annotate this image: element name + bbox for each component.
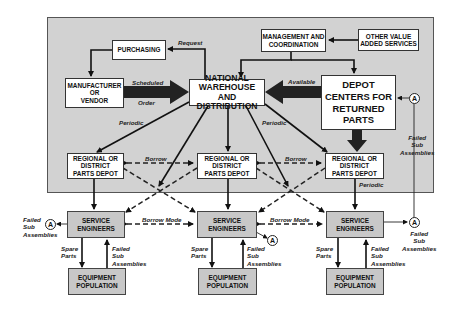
manufacturer-vendor-box: MANUFACTURER OR VENDOR	[65, 78, 124, 108]
equipment-population-right-box: EQUIPMENT POPULATION	[326, 268, 384, 295]
failed-sub-eq-left-label: Failed Sub Assemblies	[112, 245, 146, 267]
failed-sub-eq-right-label: Failed Sub Assemblies	[371, 245, 405, 267]
order-label: Order	[138, 99, 155, 106]
spare-parts-left-label: Spare Parts	[61, 245, 78, 260]
failed-sub-top-right-label: Failed Sub Assemblies	[400, 134, 434, 156]
spare-parts-right-label: Spare Parts	[316, 245, 333, 260]
failed-sub-eq-mid-label: Failed Sub Assemblies	[247, 245, 281, 267]
periodic-mid-label: Periodic	[262, 119, 286, 126]
scheduled-label: Scheduled	[132, 79, 163, 86]
regional-depot-right-box: REGIONAL OR DISTRICT PARTS DEPOT	[325, 153, 384, 179]
equipment-population-left-box: EQUIPMENT POPULATION	[68, 268, 126, 295]
request-label: Request	[178, 39, 202, 46]
equipment-population-mid-box: EQUIPMENT POPULATION	[198, 268, 257, 295]
management-coordination-box: MANAGEMENT AND COORDINATION	[261, 29, 326, 52]
borrow-mode-right-label: Borrow Mode	[270, 216, 310, 223]
connector-a-top-right: A	[409, 93, 420, 104]
spare-parts-mid-label: Spare Parts	[191, 245, 208, 260]
regional-depot-left-box: REGIONAL OR DISTRICT PARTS DEPOT	[67, 153, 124, 179]
failed-sub-left-label: Failed Sub Assemblies	[23, 216, 57, 238]
service-engineers-left-box: SERVICE ENGINEERS	[67, 211, 125, 238]
national-warehouse-box: NATIONAL WAREHOUSE AND DISTRIBUTION	[189, 79, 265, 106]
periodic-left-label: Periodic	[119, 119, 143, 126]
failed-sub-bottom-right-label: Failed Sub Assemblies	[402, 230, 436, 252]
service-engineers-mid-box: SERVICE ENGINEERS	[197, 211, 257, 238]
depot-centers-box: DEPOT CENTERS FOR RETURNED PARTS	[321, 75, 396, 130]
available-label: Available	[288, 78, 315, 85]
regional-depot-mid-box: REGIONAL OR DISTRICT PARTS DEPOT	[197, 153, 257, 179]
borrow-left-label: Borrow	[145, 155, 167, 162]
purchasing-box: PURCHASING	[112, 40, 166, 60]
connector-a-bottom-right: A	[409, 217, 420, 228]
periodic-right-label: Periodic	[359, 181, 383, 188]
other-value-added-services-box: OTHER VALUE ADDED SERVICES	[358, 29, 419, 51]
supply-chain-diagram: PURCHASING MANUFACTURER OR VENDOR NATION…	[0, 0, 460, 316]
borrow-mode-left-label: Borrow Mode	[142, 216, 182, 223]
borrow-right-label: Borrow	[285, 155, 307, 162]
service-engineers-right-box: SERVICE ENGINEERS	[326, 211, 384, 238]
